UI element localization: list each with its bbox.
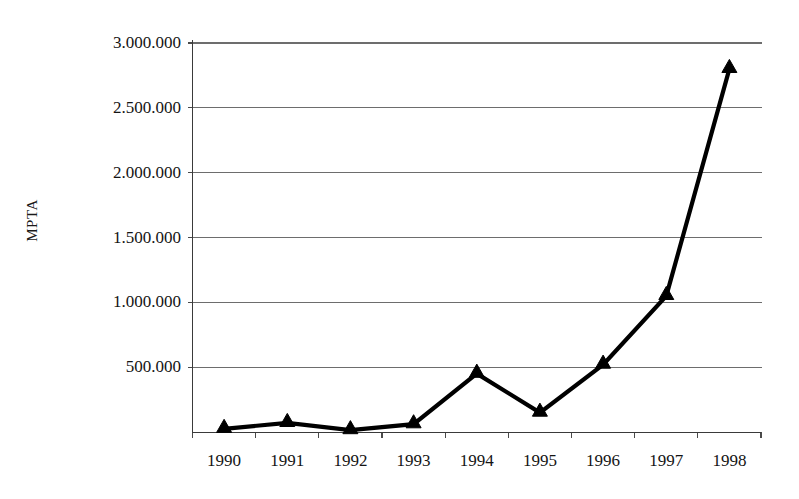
x-tick-label: 1994 bbox=[460, 452, 494, 469]
x-tick-label: 1990 bbox=[207, 452, 241, 469]
x-tick-label: 1991 bbox=[270, 452, 304, 469]
x-tick-label: 1998 bbox=[712, 452, 746, 469]
x-axis-tick-labels: 199019911992199319941995199619971998 bbox=[0, 0, 799, 499]
x-tick-label: 1996 bbox=[586, 452, 620, 469]
x-tick-label: 1995 bbox=[523, 452, 557, 469]
line-chart: MPTA 3.000.0002.500.0002.000.0001.500.00… bbox=[0, 0, 799, 499]
x-tick-label: 1997 bbox=[649, 452, 683, 469]
x-tick-label: 1992 bbox=[333, 452, 367, 469]
x-tick-label: 1993 bbox=[397, 452, 431, 469]
